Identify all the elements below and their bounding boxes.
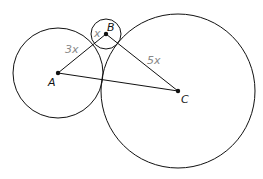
- label-bc-length: 5x: [147, 54, 161, 67]
- label-b-radius: x: [93, 27, 101, 40]
- point-c: [176, 89, 180, 93]
- point-a: [56, 71, 60, 75]
- tangent-circles-diagram: A B C 3x 5x x: [0, 0, 263, 179]
- label-b: B: [107, 21, 115, 34]
- segment-ac: [58, 73, 178, 91]
- label-c: C: [181, 93, 189, 106]
- label-a: A: [47, 76, 56, 89]
- label-ab-length: 3x: [65, 43, 79, 56]
- segment-bc: [106, 34, 178, 91]
